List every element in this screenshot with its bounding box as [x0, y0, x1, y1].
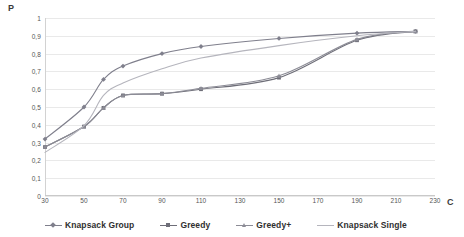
legend-item-1[interactable]: Knapsack Group: [45, 220, 134, 230]
x-tick-label: 30: [41, 197, 48, 204]
y-axis-tick-labels: 00,10,20,30,40,50,60,70,80,91: [0, 18, 41, 196]
legend-marker-icon: [160, 222, 177, 229]
series-4: [45, 31, 416, 152]
legend-marker-icon: [45, 222, 62, 229]
plot-area: [45, 18, 435, 196]
y-tick-label: 0,6: [1, 86, 41, 93]
x-tick-label: 130: [234, 197, 245, 204]
series-layer: [45, 18, 435, 196]
y-tick-label: 0,9: [1, 32, 41, 39]
y-tick-label: 0: [1, 193, 41, 200]
legend-item-2[interactable]: Greedy: [160, 220, 210, 230]
legend-label: Knapsack Group: [65, 220, 134, 230]
x-tick-label: 230: [429, 197, 440, 204]
x-tick-label: 70: [119, 197, 126, 204]
x-axis-tick-labels: 30507090110130150170190210230: [45, 197, 435, 209]
y-tick-label: 0,2: [1, 157, 41, 164]
y-tick-label: 0,1: [1, 175, 41, 182]
data-point-marker: [121, 64, 126, 69]
data-point-marker: [355, 31, 360, 36]
y-axis-label: P: [8, 3, 14, 13]
chart-legend: Knapsack GroupGreedyGreedy+Knapsack Sing…: [45, 218, 445, 232]
legend-label: Greedy+: [256, 220, 291, 230]
series-3: [43, 29, 418, 149]
legend-item-4[interactable]: Knapsack Single: [317, 220, 407, 230]
x-tick-label: 210: [390, 197, 401, 204]
data-point-marker: [199, 44, 204, 49]
x-tick-label: 50: [80, 197, 87, 204]
legend-label: Greedy: [180, 220, 210, 230]
data-point-marker: [277, 36, 282, 41]
x-tick-label: 190: [351, 197, 362, 204]
legend-item-3[interactable]: Greedy+: [236, 220, 291, 230]
data-point-marker: [160, 51, 165, 56]
y-tick-label: 0,7: [1, 68, 41, 75]
y-tick-label: 0,3: [1, 139, 41, 146]
legend-marker-icon: [236, 222, 253, 229]
x-tick-label: 170: [312, 197, 323, 204]
x-tick-label: 150: [273, 197, 284, 204]
y-tick-label: 0,4: [1, 121, 41, 128]
y-tick-label: 1: [1, 15, 41, 22]
x-tick-label: 90: [158, 197, 165, 204]
x-axis-label: C: [447, 197, 454, 207]
series-line: [45, 31, 416, 152]
series-line: [45, 31, 416, 147]
y-tick-label: 0,8: [1, 50, 41, 57]
series-line: [45, 31, 416, 147]
x-tick-label: 110: [196, 197, 207, 204]
legend-marker-icon: [317, 222, 334, 229]
legend-label: Knapsack Single: [337, 220, 407, 230]
series-2: [43, 29, 417, 149]
line-chart: P C 00,10,20,30,40,50,60,70,80,91 305070…: [0, 0, 464, 237]
y-tick-label: 0,5: [1, 104, 41, 111]
